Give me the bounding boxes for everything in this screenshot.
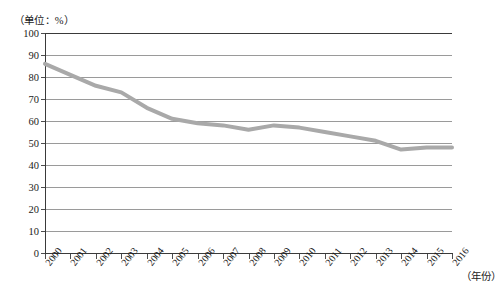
gridline	[45, 55, 452, 56]
unit-note: （单位：%）	[14, 12, 74, 27]
y-axis-tick-label: 60	[13, 116, 39, 127]
x-axis-tick-label: 2001	[68, 245, 89, 268]
x-axis-tick-label: 2011	[323, 246, 344, 268]
y-axis-tick-label: 100	[13, 28, 39, 39]
y-axis-tick-label: 70	[13, 94, 39, 105]
gridline	[45, 33, 452, 34]
y-axis-tick-label: 30	[13, 182, 39, 193]
gridline	[45, 77, 452, 78]
x-axis-tick-label: 2016	[450, 245, 471, 268]
gridline	[45, 143, 452, 144]
gridline	[45, 187, 452, 188]
gridline	[45, 209, 452, 210]
gridline	[45, 121, 452, 122]
x-axis-tick-label: 2005	[170, 245, 191, 268]
x-axis-tick-label: 2006	[196, 245, 217, 268]
x-axis-tick-label: 2009	[272, 245, 293, 268]
y-axis-tick-label: 80	[13, 72, 39, 83]
y-axis-tick-label: 50	[13, 138, 39, 149]
x-axis-tick-label: 2013	[374, 245, 395, 268]
x-axis-tick-label: 2007	[221, 245, 242, 268]
y-axis-tick-label: 10	[13, 226, 39, 237]
x-axis-title: （年份）	[461, 268, 499, 283]
gridline	[45, 165, 452, 166]
gridline	[45, 99, 452, 100]
x-axis-tick-label: 2003	[119, 245, 140, 268]
y-axis-tick-label: 90	[13, 50, 39, 61]
x-axis-tick-label: 2015	[425, 245, 446, 268]
x-axis-tick-label: 2008	[247, 245, 268, 268]
y-axis-tick-label: 0	[13, 248, 39, 259]
x-axis-tick-label: 2012	[348, 245, 369, 268]
y-axis-tick-label: 20	[13, 204, 39, 215]
x-axis-tick-label: 2014	[399, 245, 420, 268]
gridline	[45, 231, 452, 232]
x-axis-tick-label: 2004	[145, 245, 166, 268]
y-axis-tick-label: 40	[13, 160, 39, 171]
x-axis-tick-label: 2010	[297, 245, 318, 268]
y-axis-line	[45, 33, 46, 254]
x-axis-tick-label: 2002	[94, 245, 115, 268]
